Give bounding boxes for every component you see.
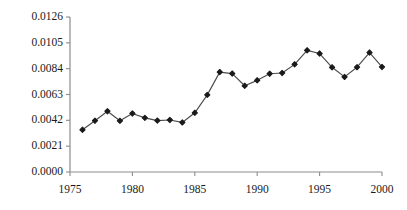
y-axis-tick-label: 0.0126 xyxy=(31,11,63,23)
axes-group xyxy=(66,17,382,176)
data-point-marker xyxy=(255,78,260,83)
data-point-marker xyxy=(167,117,172,122)
data-series-group xyxy=(80,48,385,133)
x-axis-tick-label: 2000 xyxy=(371,184,394,196)
y-axis-tick-label: 0.0063 xyxy=(31,89,63,101)
x-axis-tick-label: 1980 xyxy=(121,184,144,196)
y-axis-tick-label: 0.0105 xyxy=(31,37,63,49)
data-point-marker xyxy=(217,70,222,75)
data-point-marker xyxy=(130,111,135,116)
y-axis-tick-label: 0.0000 xyxy=(31,166,63,178)
x-axis-ticks xyxy=(70,172,382,176)
data-point-marker xyxy=(267,71,272,76)
series-line xyxy=(82,50,382,129)
y-axis-tick-label: 0.0084 xyxy=(31,63,63,75)
series-markers xyxy=(80,48,385,133)
data-point-marker xyxy=(155,118,160,123)
x-axis-tick-label: 1990 xyxy=(246,184,269,196)
y-axis-tick-label: 0.0021 xyxy=(31,140,63,152)
x-axis-tick-label: 1985 xyxy=(183,184,206,196)
line-chart: 0.00000.00210.00420.00630.00840.01050.01… xyxy=(0,0,407,210)
x-axis-tick-label: 1975 xyxy=(59,184,82,196)
x-axis-tick-label: 1995 xyxy=(308,184,331,196)
chart-plot-area xyxy=(0,0,407,210)
data-point-marker xyxy=(142,115,147,120)
y-axis-tick-label: 0.0042 xyxy=(31,115,63,127)
